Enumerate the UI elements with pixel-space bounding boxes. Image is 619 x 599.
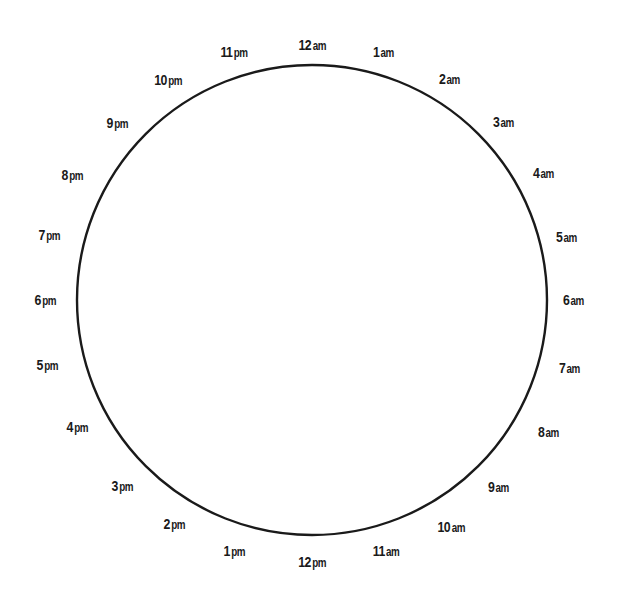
clock-dial: [0, 0, 619, 599]
hour-number: 3: [493, 114, 499, 129]
hour-number: 7: [39, 227, 45, 242]
hour-label-6am: 6am: [562, 292, 587, 308]
hour-suffix: pm: [114, 118, 128, 130]
hour-number: 9: [488, 479, 494, 494]
hour-number: 11: [220, 44, 232, 59]
hour-number: 5: [556, 229, 562, 244]
hour-number: 11: [373, 543, 385, 558]
hour-number: 2: [439, 71, 445, 86]
hour-suffix: am: [540, 168, 553, 180]
hour-label-5am: 5am: [555, 229, 580, 245]
hour-suffix: am: [312, 40, 325, 52]
hour-label-4pm: 4pm: [65, 419, 91, 435]
hour-suffix: pm: [46, 230, 60, 242]
hour-suffix: am: [563, 232, 576, 244]
hour-label-3pm: 3pm: [110, 478, 136, 494]
hour-suffix: am: [380, 47, 393, 59]
hour-suffix: pm: [44, 360, 58, 372]
hour-suffix: am: [500, 117, 513, 129]
hour-label-6pm: 6pm: [33, 292, 59, 308]
hour-label-4am: 4am: [532, 165, 557, 181]
hour-label-8pm: 8pm: [60, 167, 86, 183]
hour-suffix: am: [545, 427, 558, 439]
hour-number: 1: [373, 44, 379, 59]
hour-label-8am: 8am: [537, 424, 562, 440]
hour-number: 2: [164, 516, 170, 531]
hour-number: 10: [154, 72, 167, 87]
hour-label-3am: 3am: [492, 114, 517, 130]
hour-suffix: pm: [312, 557, 326, 569]
hour-label-11am: 11am: [370, 543, 402, 559]
hour-suffix: pm: [119, 481, 133, 493]
hour-number: 8: [538, 424, 544, 439]
hour-suffix: pm: [74, 422, 88, 434]
hour-label-5pm: 5pm: [35, 357, 61, 373]
hour-number: 5: [37, 357, 43, 372]
hour-label-10pm: 10pm: [151, 72, 184, 88]
hour-label-11pm: 11pm: [218, 44, 250, 60]
hour-label-10am: 10am: [435, 519, 468, 535]
hour-label-12am: 12am: [296, 37, 329, 53]
hour-label-1pm: 1pm: [222, 543, 248, 559]
hour-number: 12: [298, 554, 311, 569]
hour-suffix: pm: [42, 295, 56, 307]
hour-number: 6: [35, 292, 41, 307]
hour-label-2pm: 2pm: [162, 516, 188, 532]
hour-number: 6: [563, 292, 569, 307]
hour-suffix: am: [446, 74, 459, 86]
hour-suffix: pm: [233, 47, 247, 59]
hour-number: 3: [112, 478, 118, 493]
hour-suffix: pm: [171, 519, 185, 531]
hour-suffix: am: [386, 546, 399, 558]
hour-label-2am: 2am: [438, 71, 463, 87]
hour-label-9am: 9am: [487, 479, 512, 495]
hour-number: 8: [62, 167, 68, 182]
hour-number: 10: [437, 519, 450, 534]
hour-suffix: am: [570, 295, 583, 307]
hour-number: 1: [224, 543, 230, 558]
hour-number: 7: [559, 360, 565, 375]
hour-number: 4: [67, 419, 73, 434]
hour-number: 4: [533, 165, 539, 180]
hour-suffix: am: [451, 522, 464, 534]
hour-suffix: am: [566, 363, 579, 375]
hour-suffix: pm: [69, 170, 83, 182]
clock-rim: [77, 65, 547, 535]
hour-label-7pm: 7pm: [37, 227, 63, 243]
hour-suffix: pm: [231, 546, 245, 558]
hour-label-12pm: 12pm: [295, 554, 328, 570]
hour-label-9pm: 9pm: [105, 115, 131, 131]
hour-label-7am: 7am: [558, 360, 583, 376]
hour-suffix: am: [495, 482, 508, 494]
hour-suffix: pm: [168, 75, 182, 87]
hour-label-1am: 1am: [372, 44, 397, 60]
hour-number: 12: [298, 37, 311, 52]
hour-number: 9: [107, 115, 113, 130]
